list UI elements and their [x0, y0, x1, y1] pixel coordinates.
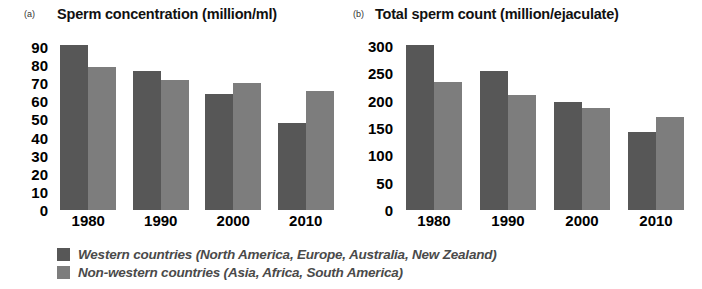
panel-b-bar-groups [397, 38, 693, 210]
y-axis-tick-label: 150 [368, 121, 393, 136]
bar-nonwestern-2010[interactable] [656, 117, 684, 210]
bar-western-2010[interactable] [628, 132, 656, 210]
bar-nonwestern-1980[interactable] [88, 67, 116, 210]
bar-western-2000[interactable] [205, 94, 233, 210]
panel-a-y-axis: 0102030405060708090 [8, 38, 48, 210]
x-axis-tick-label: 1990 [125, 212, 198, 234]
bar-group-2000 [197, 38, 270, 210]
y-axis-tick-label: 70 [31, 76, 48, 91]
y-axis-tick-label: 100 [368, 148, 393, 163]
legend-item-nonwestern: Non-western countries (Asia, Africa, Sou… [57, 263, 657, 281]
panel-b-x-axis: 1980199020002010 [397, 212, 693, 234]
bar-group-1980 [397, 38, 471, 210]
bar-nonwestern-2010[interactable] [306, 91, 334, 210]
x-axis-tick-label: 1980 [52, 212, 125, 234]
legend-item-western: Western countries (North America, Europe… [57, 245, 657, 263]
bar-group-2010 [619, 38, 693, 210]
panel-b-title: Total sperm count (million/ejaculate) [375, 6, 619, 22]
y-axis-tick-label: 20 [31, 166, 48, 181]
bar-group-2010 [270, 38, 343, 210]
y-axis-tick-label: 50 [31, 112, 48, 127]
bar-western-2010[interactable] [278, 123, 306, 210]
y-axis-tick-label: 300 [368, 39, 393, 54]
y-axis-tick-label: 10 [31, 184, 48, 199]
x-axis-tick-label: 1990 [471, 212, 545, 234]
bar-western-1990[interactable] [133, 71, 161, 210]
x-axis-tick-label: 1980 [397, 212, 471, 234]
panel-a-bar-groups [52, 38, 342, 210]
panel-b: (b) Total sperm count (million/ejaculate… [351, 0, 702, 240]
panel-a: (a) Sperm concentration (million/ml) 010… [0, 0, 351, 240]
x-axis-tick-label: 2010 [619, 212, 693, 234]
bar-nonwestern-1980[interactable] [434, 82, 462, 210]
legend-swatch-nonwestern-icon [57, 266, 70, 279]
bar-group-1990 [471, 38, 545, 210]
bar-group-1990 [125, 38, 198, 210]
panel-a-x-axis: 1980199020002010 [52, 212, 342, 234]
x-axis-tick-label: 2010 [270, 212, 343, 234]
bar-group-1980 [52, 38, 125, 210]
bar-western-1980[interactable] [60, 45, 88, 210]
y-axis-tick-label: 50 [376, 175, 393, 190]
legend-label: Non-western countries (Asia, Africa, Sou… [78, 265, 403, 280]
bar-nonwestern-2000[interactable] [582, 108, 610, 210]
y-axis-tick-label: 90 [31, 40, 48, 55]
x-axis-tick-label: 2000 [197, 212, 270, 234]
legend-label: Western countries (North America, Europe… [78, 247, 497, 262]
y-axis-tick-label: 0 [40, 203, 48, 218]
panel-a-title: Sperm concentration (million/ml) [57, 6, 277, 22]
bar-group-2000 [545, 38, 619, 210]
bar-western-1990[interactable] [480, 71, 508, 210]
panel-b-letter: (b) [353, 9, 364, 19]
y-axis-tick-label: 200 [368, 93, 393, 108]
y-axis-tick-label: 0 [385, 203, 393, 218]
legend: Western countries (North America, Europe… [57, 245, 657, 281]
bar-western-1980[interactable] [406, 45, 434, 210]
panel-a-letter: (a) [24, 9, 35, 19]
panel-b-plot-area [397, 38, 693, 210]
x-axis-tick-label: 2000 [545, 212, 619, 234]
panel-a-plot-area [52, 38, 342, 210]
y-axis-tick-label: 30 [31, 148, 48, 163]
y-axis-tick-label: 40 [31, 130, 48, 145]
figure: (a) Sperm concentration (million/ml) 010… [0, 0, 702, 289]
bar-nonwestern-1990[interactable] [161, 80, 189, 210]
bar-nonwestern-2000[interactable] [233, 83, 261, 210]
y-axis-tick-label: 80 [31, 58, 48, 73]
y-axis-tick-label: 60 [31, 94, 48, 109]
legend-swatch-western-icon [57, 248, 70, 261]
bar-nonwestern-1990[interactable] [508, 95, 536, 210]
bar-western-2000[interactable] [554, 102, 582, 210]
panel-b-y-axis: 050100150200250300 [353, 38, 393, 210]
y-axis-tick-label: 250 [368, 66, 393, 81]
